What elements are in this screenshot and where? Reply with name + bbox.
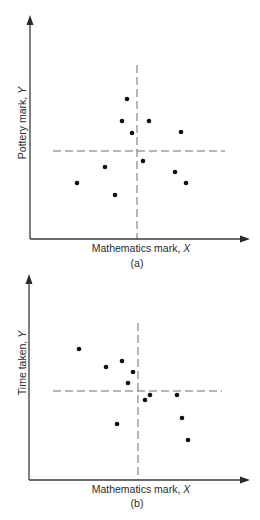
data-point [147, 119, 152, 124]
data-point [125, 97, 130, 102]
mean-crosshair-b [53, 323, 222, 480]
data-point [175, 393, 180, 398]
data-point [173, 170, 178, 175]
x-axis-label-text: Mathematics mark, [92, 242, 184, 254]
figure-caption-b: (b) [131, 498, 144, 509]
data-point [184, 181, 189, 186]
data-point [104, 365, 109, 370]
data-point [113, 193, 118, 198]
data-point [141, 159, 146, 164]
y-axis-label-a: Pottery mark, Y [17, 87, 28, 159]
data-point [120, 359, 125, 364]
data-point [115, 422, 120, 427]
data-point [75, 181, 80, 186]
x-axis-arrow-icon [240, 236, 250, 243]
x-axis-variable: X [183, 242, 190, 254]
data-point [186, 438, 191, 443]
x-axis-arrow-icon [240, 477, 250, 484]
mean-crosshair-a [53, 65, 225, 239]
data-point [103, 165, 108, 170]
y-axis-variable: Y [16, 87, 28, 94]
data-point [131, 370, 136, 375]
data-point [148, 393, 153, 398]
data-point [77, 347, 82, 352]
data-point [143, 398, 148, 403]
data-point [179, 130, 184, 135]
data-points-b [77, 347, 191, 443]
axes-a [27, 15, 251, 243]
data-point [120, 119, 125, 124]
data-point [126, 381, 131, 386]
x-axis-label-a: Mathematics mark, X [92, 243, 191, 254]
x-axis-label-b: Mathematics mark, X [92, 484, 191, 495]
y-axis-arrow-icon [27, 15, 34, 25]
x-axis-variable: X [183, 483, 190, 495]
scatter-plot-a: Pottery mark, Y Mathematics mark, X (a) [0, 0, 260, 260]
y-axis-arrow-icon [26, 274, 33, 284]
plot-area-a [0, 0, 260, 260]
x-axis-label-text: Mathematics mark, [92, 483, 184, 495]
y-axis-label-text: Pottery mark, [16, 94, 28, 159]
y-axis-label-b: Time taken, Y [17, 331, 28, 395]
y-axis-variable: Y [16, 331, 28, 338]
data-point [130, 131, 135, 136]
data-points-a [75, 97, 189, 198]
y-axis-label-text: Time taken, [16, 338, 28, 395]
data-point [180, 416, 185, 421]
scatter-plot-b: Time taken, Y Mathematics mark, X (b) [0, 260, 260, 520]
plot-area-b [0, 260, 260, 520]
